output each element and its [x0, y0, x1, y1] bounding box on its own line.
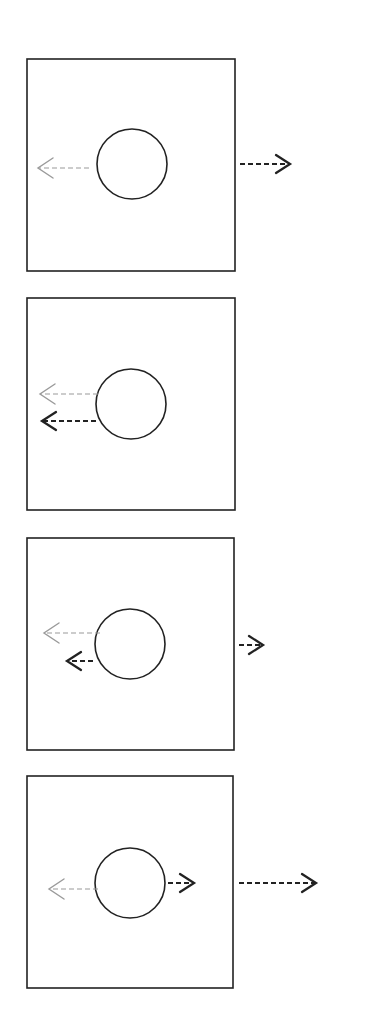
- panel-1: [27, 59, 290, 271]
- container-box: [27, 538, 234, 750]
- container-box: [27, 59, 235, 271]
- outer-arrow-right-icon: [239, 874, 316, 892]
- ghost-arrow-left-icon: [49, 879, 98, 899]
- panel-4: [27, 776, 316, 988]
- ghost-arrow-left-icon: [38, 158, 89, 178]
- ghost-arrow-left-icon: [40, 384, 98, 404]
- container-box: [27, 298, 235, 510]
- panel-2: [27, 298, 235, 510]
- dark-arrow-right-icon: [168, 874, 194, 892]
- dark-arrow-left-icon: [67, 652, 93, 670]
- ghost-arrow-left-icon: [44, 623, 100, 643]
- ball-circle: [95, 848, 165, 918]
- panel-3: [27, 538, 263, 750]
- outer-arrow-right-icon: [239, 636, 263, 654]
- ball-circle: [97, 129, 167, 199]
- container-box: [27, 776, 233, 988]
- diagram-canvas: [0, 0, 386, 1020]
- ball-circle: [96, 369, 166, 439]
- dark-arrow-left-icon: [42, 412, 96, 430]
- outer-arrow-right-icon: [240, 155, 290, 173]
- ball-circle: [95, 609, 165, 679]
